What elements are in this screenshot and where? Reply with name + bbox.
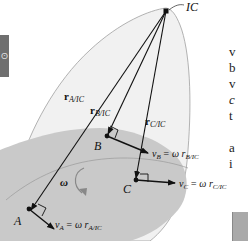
right-gray-box: [232, 212, 248, 241]
side-tab: ʘ: [0, 35, 9, 77]
right-text-line-3: v: [229, 76, 236, 92]
label-A: A: [13, 214, 22, 228]
right-text-line-5: t: [229, 108, 233, 124]
ic-label: IC: [185, 0, 199, 14]
label-B: B: [94, 139, 102, 153]
instantaneous-center-diagram: IC ω A B C rA/IC rB/IC rC/IC vA= ω rA/IC…: [0, 0, 248, 241]
side-tab-glyph-icon: ʘ: [1, 51, 8, 61]
right-text-line-7: i: [229, 156, 233, 172]
right-text-line-1: v: [229, 44, 236, 60]
right-text-line-4: c: [229, 92, 235, 108]
ic-point: [164, 9, 169, 14]
ic-leader: [169, 5, 184, 10]
right-text-line-2: b: [229, 60, 236, 76]
right-text-line-6: a: [229, 140, 235, 156]
label-C: C: [123, 182, 132, 196]
omega-label: ω: [60, 176, 68, 188]
